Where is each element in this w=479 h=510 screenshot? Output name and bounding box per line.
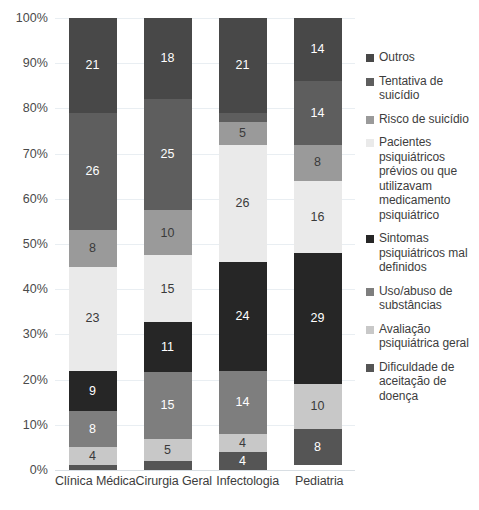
y-axis-tick: 60%: [23, 193, 48, 206]
stacked-bar[interactable]: 2126823984: [69, 18, 117, 470]
legend-label: Sintomas psiquiátricos mal definidos: [379, 231, 479, 275]
x-axis-label: Pediatria: [284, 474, 356, 488]
stacked-bar-chart: 0%10%20%30%40%50%60%70%80%90%100% 212682…: [0, 0, 479, 510]
y-axis-tick: 20%: [23, 373, 48, 386]
y-axis-tick: 80%: [23, 102, 48, 115]
y-axis-tick: 50%: [23, 238, 48, 251]
y-axis-tick: 10%: [23, 419, 48, 432]
legend-swatch-icon: [366, 235, 374, 243]
legend-item[interactable]: Uso/abuso de substâncias: [366, 284, 479, 313]
bar-segment[interactable]: 8: [69, 411, 117, 447]
legend-label: Outros: [379, 50, 415, 65]
bar-segment[interactable]: 8: [294, 429, 342, 465]
bar-segment[interactable]: 9: [69, 371, 117, 412]
bar-segment[interactable]: 24: [219, 262, 267, 370]
legend-item[interactable]: Sintomas psiquiátricos mal definidos: [366, 231, 479, 275]
stacked-bar[interactable]: 1825101511155: [144, 18, 192, 470]
bar-segment[interactable]: 15: [144, 372, 192, 439]
legend-swatch-icon: [366, 78, 374, 86]
x-axis-label: Infectologia: [212, 474, 284, 488]
y-axis-tick: 30%: [23, 328, 48, 341]
y-axis-tick: 70%: [23, 147, 48, 160]
bar-segment[interactable]: 15: [144, 255, 192, 322]
bar-segment[interactable]: 4: [219, 452, 267, 470]
bar-segment[interactable]: 5: [219, 122, 267, 145]
bar-segment[interactable]: 11: [144, 322, 192, 371]
bar-segment[interactable]: 5: [144, 439, 192, 461]
bar-segment[interactable]: 14: [294, 81, 342, 144]
bar-slot: 141481629108: [280, 18, 355, 470]
bar-segment[interactable]: 26: [69, 113, 117, 231]
legend-label: Risco de suicídio: [379, 112, 469, 127]
bar-group: 2126823984182510151115521526241444141481…: [55, 18, 355, 470]
legend-label: Pacientes psiquiátricos prévios ou que u…: [379, 135, 479, 222]
bar-segment[interactable]: 8: [294, 145, 342, 181]
bar-segment[interactable]: 4: [69, 447, 117, 465]
legend-swatch-icon: [366, 326, 374, 334]
legend: OutrosTentativa de suicídioRisco de suic…: [366, 50, 479, 412]
bar-slot: 1825101511155: [130, 18, 205, 470]
y-axis: 0%10%20%30%40%50%60%70%80%90%100%: [0, 0, 52, 470]
bar-segment[interactable]: 4: [219, 434, 267, 452]
legend-swatch-icon: [366, 364, 374, 372]
legend-label: Tentativa de suicídio: [379, 74, 479, 103]
legend-label: Avaliação psiquiátrica geral: [379, 322, 479, 351]
legend-item[interactable]: Outros: [366, 50, 479, 65]
bar-segment[interactable]: 23: [69, 267, 117, 371]
legend-item[interactable]: Risco de suicídio: [366, 112, 479, 127]
bar-segment[interactable]: 10: [294, 384, 342, 429]
bar-segment[interactable]: 26: [219, 145, 267, 263]
bar-segment[interactable]: 29: [294, 253, 342, 384]
x-axis-label: Clínica Médica: [55, 474, 136, 488]
stacked-bar[interactable]: 21526241444: [219, 18, 267, 470]
plot-area: 2126823984182510151115521526241444141481…: [55, 18, 355, 470]
stacked-bar[interactable]: 141481629108: [294, 18, 342, 470]
bar-slot: 21526241444: [205, 18, 280, 470]
y-axis-tick: 0%: [30, 464, 48, 477]
x-axis: Clínica MédicaCirurgia GeralInfectologia…: [55, 474, 355, 488]
y-axis-tick: 100%: [16, 12, 48, 25]
legend-item[interactable]: Tentativa de suicídio: [366, 74, 479, 103]
bar-segment[interactable]: 18: [144, 18, 192, 99]
bar-segment[interactable]: 14: [294, 18, 342, 81]
x-axis-label: Cirurgia Geral: [136, 474, 212, 488]
bar-segment[interactable]: [144, 461, 192, 470]
legend-swatch-icon: [366, 288, 374, 296]
bar-segment[interactable]: 21: [219, 18, 267, 113]
legend-item[interactable]: Avaliação psiquiátrica geral: [366, 322, 479, 351]
legend-label: Uso/abuso de substâncias: [379, 284, 479, 313]
bar-segment[interactable]: 25: [144, 99, 192, 211]
legend-swatch-icon: [366, 139, 374, 147]
legend-label: Dificuldade de aceitação de doença: [379, 360, 479, 404]
bar-segment[interactable]: 21: [69, 18, 117, 113]
legend-swatch-icon: [366, 54, 374, 62]
bar-segment[interactable]: [219, 113, 267, 122]
legend-item[interactable]: Pacientes psiquiátricos prévios ou que u…: [366, 135, 479, 222]
bar-segment[interactable]: 8: [69, 230, 117, 266]
y-axis-tick: 40%: [23, 283, 48, 296]
bar-segment[interactable]: 10: [144, 210, 192, 255]
bar-slot: 2126823984: [55, 18, 130, 470]
bar-segment[interactable]: 14: [219, 371, 267, 434]
legend-swatch-icon: [366, 116, 374, 124]
y-axis-tick: 90%: [23, 57, 48, 70]
bar-segment[interactable]: 16: [294, 181, 342, 253]
bar-segment[interactable]: [69, 465, 117, 470]
legend-item[interactable]: Dificuldade de aceitação de doença: [366, 360, 479, 404]
gridline: [55, 470, 355, 471]
